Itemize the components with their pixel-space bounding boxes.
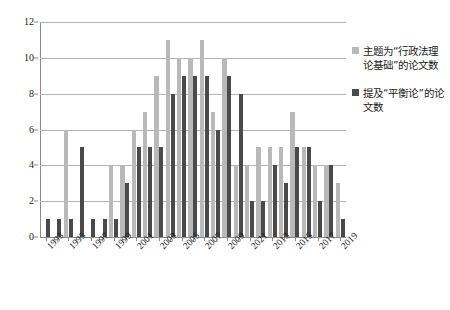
bar [329, 165, 333, 237]
bar [109, 165, 113, 237]
x-axis: 1993199519971999200120032005200720092021… [40, 238, 346, 298]
y-axis: 024681012 [0, 22, 34, 237]
bar [69, 219, 73, 237]
x-tick-mark [261, 238, 262, 241]
bar-group [323, 22, 334, 237]
bar [222, 58, 226, 237]
bar [302, 147, 306, 237]
x-tick-mark [57, 238, 58, 241]
bar-group [210, 22, 221, 237]
bar [188, 58, 192, 237]
bar [234, 165, 238, 237]
bar [313, 165, 317, 237]
chart-figure: 024681012 199319951997199920012003200520… [0, 0, 450, 310]
x-tick-mark [125, 238, 126, 241]
bar-group [289, 22, 300, 237]
legend-item-label: 主题为“行政法理论基础”的论文数 [363, 44, 448, 72]
bar [120, 165, 124, 237]
bar-group [142, 22, 153, 237]
y-tick-label: 10 [24, 53, 34, 63]
bar-group [199, 22, 210, 237]
bar-group [187, 22, 198, 237]
bar [318, 201, 322, 237]
bar-group [97, 22, 108, 237]
bar [216, 130, 220, 238]
bar [290, 112, 294, 237]
bar-group [176, 22, 187, 237]
bar [200, 40, 204, 237]
x-tick-mark [216, 238, 217, 241]
bar-group [255, 22, 266, 237]
y-tick-label: 12 [24, 17, 34, 27]
bar [279, 147, 283, 237]
bar-group [40, 22, 51, 237]
y-tick-mark [34, 237, 38, 238]
bar [143, 112, 147, 237]
bar-group [278, 22, 289, 237]
bar [132, 130, 136, 238]
y-tick-mark [34, 57, 38, 58]
y-tick-mark [34, 201, 38, 202]
x-tick-mark [170, 238, 171, 241]
bar [227, 76, 231, 237]
bar [205, 76, 209, 237]
legend-item-label: 提及“平衡论”的论文数 [363, 86, 448, 114]
bar [46, 219, 50, 237]
bar-group [335, 22, 346, 237]
bar [182, 76, 186, 237]
bar [307, 147, 311, 237]
bar [154, 76, 158, 237]
bar [193, 76, 197, 237]
y-tick-mark [34, 129, 38, 130]
x-tick-mark [306, 238, 307, 241]
bar [166, 40, 170, 237]
bar-group [165, 22, 176, 237]
x-tick-mark [329, 238, 330, 241]
y-tick-mark [34, 22, 38, 23]
x-tick-mark [284, 238, 285, 241]
legend-swatch-icon [352, 89, 359, 96]
x-tick-mark [238, 238, 239, 241]
bar [250, 201, 254, 237]
bar-group [221, 22, 232, 237]
bar [125, 183, 129, 237]
bar [245, 165, 249, 237]
bar-group [301, 22, 312, 237]
bar-group [244, 22, 255, 237]
bar [80, 147, 84, 237]
bar [239, 94, 243, 237]
bar [91, 219, 95, 237]
bar-group [233, 22, 244, 237]
bar-group [108, 22, 119, 237]
legend-item[interactable]: 主题为“行政法理论基础”的论文数 [352, 44, 448, 72]
bar-group [51, 22, 62, 237]
bar [159, 147, 163, 237]
legend-swatch-icon [352, 47, 359, 54]
bar [256, 147, 260, 237]
bar [295, 147, 299, 237]
legend-item[interactable]: 提及“平衡论”的论文数 [352, 86, 448, 114]
x-tick-mark [102, 238, 103, 241]
x-tick-mark [148, 238, 149, 241]
plot-area [40, 22, 346, 237]
y-tick-mark [34, 165, 38, 166]
bar [336, 183, 340, 237]
bar-group [131, 22, 142, 237]
bar [284, 183, 288, 237]
bar-group [74, 22, 85, 237]
bar-group [267, 22, 278, 237]
bar-series-container [40, 22, 346, 237]
bar [148, 147, 152, 237]
bar-group [85, 22, 96, 237]
x-tick-mark [80, 238, 81, 241]
chart-legend: 主题为“行政法理论基础”的论文数 提及“平衡论”的论文数 [352, 44, 448, 128]
bar-group [312, 22, 323, 237]
bar [273, 165, 277, 237]
bar-group [63, 22, 74, 237]
bar [324, 165, 328, 237]
bar [64, 130, 68, 238]
bar [171, 94, 175, 237]
y-tick-mark [34, 93, 38, 94]
bar [114, 219, 118, 237]
bar [211, 112, 215, 237]
